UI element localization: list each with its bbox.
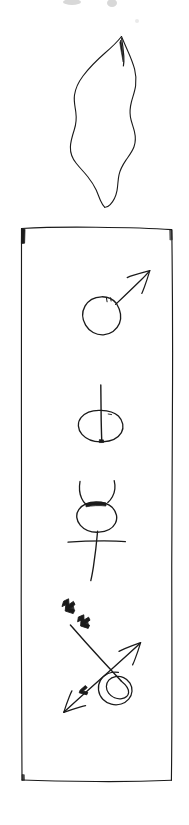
symbol-horned-circle-cross <box>68 481 125 581</box>
symbol-mars <box>83 271 150 335</box>
symbol-circle-line <box>78 385 123 443</box>
sketch-page: Hand-drawn candle with alchemical symbol… <box>0 0 189 825</box>
candle-flame <box>70 37 136 208</box>
symbol-crossed-arrows-spiral <box>62 599 141 713</box>
paper-smudges <box>63 0 139 39</box>
candle-sketch-canvas <box>0 0 189 825</box>
